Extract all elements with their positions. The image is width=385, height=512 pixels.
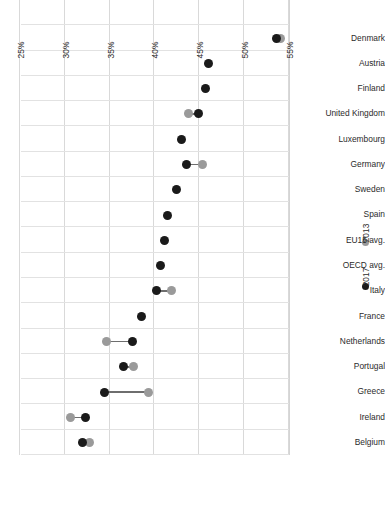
x-tick-label: 40%: [151, 30, 161, 70]
data-point-2013[interactable]: [167, 286, 176, 295]
category-label-netherlands: Netherlands: [295, 329, 385, 354]
data-point-2017[interactable]: [100, 388, 109, 397]
category-label-luxembourg: Luxembourg: [295, 126, 385, 151]
edge-fragment: r: [7, 432, 17, 442]
data-point-2017[interactable]: [81, 413, 90, 422]
category-label-united-kingdom: United Kingdom: [295, 101, 385, 126]
category-label-italy: Italy: [295, 278, 385, 303]
category-label-eu15-avg: EU15 avg.: [295, 228, 385, 253]
data-row: [21, 253, 289, 278]
data-row: [21, 228, 289, 253]
data-row: [21, 379, 289, 404]
data-point-2017[interactable]: [177, 135, 186, 144]
rotated-figure-container: 55%50%45%40%35%30%25% 20172013 b r o 1 b…: [0, 0, 385, 512]
category-label-austria: Austria: [295, 51, 385, 76]
data-row: [21, 177, 289, 202]
data-point-2017[interactable]: [201, 84, 210, 93]
data-point-2017[interactable]: [194, 110, 203, 119]
category-label-belgium: Belgium: [295, 430, 385, 455]
data-point-2013[interactable]: [129, 362, 138, 371]
dumbbell-chart: 55%50%45%40%35%30%25% 20172013 b r o 1 b…: [0, 0, 385, 512]
data-point-2017[interactable]: [128, 337, 137, 346]
x-tick-label: 25%: [16, 30, 26, 70]
data-point-2017[interactable]: [182, 160, 191, 169]
x-tick-label: 35%: [106, 30, 116, 70]
connector-line: [104, 391, 148, 393]
edge-text-fragments: b r o 1 b: [0, 0, 17, 512]
data-point-2013[interactable]: [144, 388, 153, 397]
data-row: [21, 430, 289, 455]
category-label-finland: Finland: [295, 76, 385, 101]
data-point-2013[interactable]: [66, 413, 75, 422]
data-row: [21, 303, 289, 328]
data-row: [21, 278, 289, 303]
category-label-greece: Greece: [295, 379, 385, 404]
x-tick-label: 55%: [285, 30, 295, 70]
data-point-2013[interactable]: [184, 110, 193, 119]
category-label-france: France: [295, 303, 385, 328]
data-point-2013[interactable]: [102, 337, 111, 346]
data-row: [21, 76, 289, 101]
edge-fragment: b: [7, 474, 17, 484]
data-row: [21, 152, 289, 177]
x-tick-label: 50%: [240, 30, 250, 70]
category-label-spain: Spain: [295, 202, 385, 227]
data-point-2017[interactable]: [204, 59, 213, 68]
category-label-sweden: Sweden: [295, 177, 385, 202]
data-point-2017[interactable]: [156, 261, 165, 270]
category-label-portugal: Portugal: [295, 354, 385, 379]
data-point-2017[interactable]: [119, 362, 128, 371]
data-row: [21, 126, 289, 151]
data-point-2017[interactable]: [152, 286, 161, 295]
edge-fragment: b: [7, 32, 17, 42]
data-row: [21, 329, 289, 354]
data-row: [21, 404, 289, 429]
data-point-2013[interactable]: [198, 160, 207, 169]
category-label-germany: Germany: [295, 152, 385, 177]
category-label-denmark: Denmark: [295, 25, 385, 50]
data-point-2017[interactable]: [163, 211, 172, 220]
data-point-2017[interactable]: [160, 236, 169, 245]
data-point-2017[interactable]: [272, 34, 281, 43]
x-tick-label: 45%: [195, 30, 205, 70]
category-label-ireland: Ireland: [295, 404, 385, 429]
data-point-2017[interactable]: [172, 185, 181, 194]
data-row: [21, 101, 289, 126]
row-gridline: [21, 24, 289, 25]
data-point-2017[interactable]: [137, 312, 146, 321]
data-row: [21, 202, 289, 227]
edge-fragment: o: [7, 142, 17, 152]
data-row: [21, 354, 289, 379]
x-tick-label: 30%: [61, 30, 71, 70]
edge-fragment: 1: [7, 102, 17, 112]
category-label-oecd-avg: OECD avg.: [295, 253, 385, 278]
